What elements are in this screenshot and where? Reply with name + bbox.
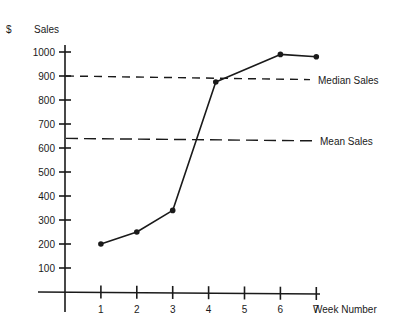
data-point — [278, 52, 284, 58]
y-tick-label: 700 — [38, 119, 55, 130]
chart: $ Sales Week Number 10020030040050060070… — [0, 0, 399, 328]
data-point — [98, 241, 104, 247]
reference-lines: Median SalesMean Sales — [66, 75, 379, 147]
x-axis-label: Week Number — [313, 304, 377, 315]
x-tick-label: 4 — [206, 304, 212, 315]
y-tick-label: 400 — [38, 191, 55, 202]
y-tick-label: 600 — [38, 143, 55, 154]
x-tick-label: 5 — [242, 304, 248, 315]
reference-line-label: Median Sales — [318, 75, 379, 86]
reference-line-median-sales — [66, 76, 310, 80]
y-tick-label: 1000 — [33, 47, 56, 58]
y-tick-label: 200 — [38, 239, 55, 250]
x-ticks: 1234567 — [98, 285, 319, 315]
x-tick-label: 3 — [170, 304, 176, 315]
y-tick-label: 900 — [38, 71, 55, 82]
series-line — [101, 54, 316, 244]
data-point — [134, 229, 140, 235]
series — [98, 52, 319, 247]
reference-line-label: Mean Sales — [320, 136, 373, 147]
reference-line-mean-sales — [66, 138, 312, 140]
data-point — [170, 208, 176, 214]
x-tick-label: 6 — [278, 304, 284, 315]
axes — [38, 45, 320, 312]
data-point — [314, 54, 320, 60]
data-point — [213, 79, 219, 85]
x-tick-label: 7 — [314, 304, 320, 315]
y-tick-label: 500 — [38, 167, 55, 178]
y-axis-label: Sales — [34, 24, 59, 35]
y-tick-label: 300 — [38, 215, 55, 226]
x-axis — [38, 292, 320, 294]
x-tick-label: 1 — [98, 304, 104, 315]
x-tick-label: 2 — [134, 304, 140, 315]
y-axis-prefix: $ — [6, 24, 12, 35]
y-tick-label: 800 — [38, 95, 55, 106]
y-tick-label: 100 — [38, 263, 55, 274]
